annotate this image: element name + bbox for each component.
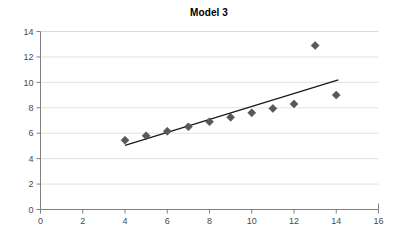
data-point-9	[227, 113, 235, 121]
data-point-4	[121, 136, 129, 144]
y-axis-tick-labels: 02468101214	[23, 27, 33, 215]
data-point-11	[269, 104, 277, 112]
x-tick-label-2: 2	[80, 216, 85, 226]
x-axis-tick-labels: 0246810121416	[38, 216, 384, 226]
x-tick-label-6: 6	[165, 216, 170, 226]
gridlines-group	[41, 32, 379, 185]
y-tick-label-4: 4	[28, 154, 33, 164]
trendline	[125, 80, 338, 145]
x-tick-label-10: 10	[247, 216, 257, 226]
y-tick-label-10: 10	[23, 78, 33, 88]
chart-plot-area: 02468101214 0246810121416	[0, 0, 418, 240]
y-tick-label-12: 12	[23, 52, 33, 62]
data-point-14	[332, 91, 340, 99]
data-point-6	[163, 127, 171, 135]
x-tick-label-8: 8	[207, 216, 212, 226]
x-tick-label-16: 16	[373, 216, 383, 226]
y-tick-label-6: 6	[28, 128, 33, 138]
x-tick-label-0: 0	[38, 216, 43, 226]
data-point-12	[290, 100, 298, 108]
x-tick-label-4: 4	[122, 216, 127, 226]
chart-container: Model 3 02468101214 0246810121416	[0, 0, 418, 240]
y-tick-label-8: 8	[28, 103, 33, 113]
trendline-series	[125, 80, 338, 145]
data-point-13	[311, 41, 319, 49]
x-tick-label-14: 14	[331, 216, 341, 226]
y-tick-label-14: 14	[23, 27, 33, 37]
y-tick-label-2: 2	[28, 179, 33, 189]
data-point-7	[184, 123, 192, 131]
x-tick-label-12: 12	[289, 216, 299, 226]
data-point-10	[248, 109, 256, 117]
y-tick-label-0: 0	[28, 205, 33, 215]
